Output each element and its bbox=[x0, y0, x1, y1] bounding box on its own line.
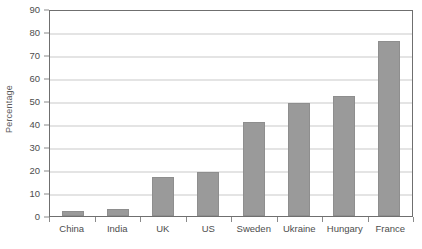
x-axis-tick-label-ukraine: Ukraine bbox=[277, 223, 323, 243]
bar-slot bbox=[186, 11, 231, 216]
bar-sweden[interactable] bbox=[243, 122, 265, 216]
y-axis-tick-label: 40 bbox=[29, 120, 40, 130]
plot-area bbox=[49, 10, 413, 217]
x-axis-tick-mark bbox=[322, 217, 323, 222]
y-axis-tick-label: 30 bbox=[29, 143, 40, 153]
y-axis-tick-label: 20 bbox=[29, 166, 40, 176]
y-axis-tick-label: 10 bbox=[29, 189, 40, 199]
bar-chart: Percentage 0102030405060708090 ChinaIndi… bbox=[0, 0, 422, 249]
x-axis-tick-marks bbox=[49, 217, 413, 222]
x-axis-tick-mark bbox=[368, 217, 369, 222]
y-axis-tick-label: 50 bbox=[29, 97, 40, 107]
x-axis-tick-label-france: France bbox=[368, 223, 414, 243]
y-axis-tick-label: 80 bbox=[29, 28, 40, 38]
x-axis-tick-label-india: India bbox=[95, 223, 141, 243]
x-axis-tick-label-us: US bbox=[186, 223, 232, 243]
x-axis-tick-mark bbox=[49, 217, 50, 222]
bar-slot bbox=[276, 11, 321, 216]
x-axis-tick-label-china: China bbox=[49, 223, 95, 243]
x-axis-tick-mark bbox=[95, 217, 96, 222]
x-axis-tick-mark bbox=[140, 217, 141, 222]
bar-slot bbox=[141, 11, 186, 216]
y-axis-tick-label: 0 bbox=[35, 212, 40, 222]
y-axis-title: Percentage bbox=[0, 0, 18, 217]
x-axis-tick-label-uk: UK bbox=[140, 223, 186, 243]
bar-china[interactable] bbox=[62, 211, 84, 216]
bar-slot bbox=[367, 11, 412, 216]
bar-hungary[interactable] bbox=[333, 96, 355, 216]
bar-slot bbox=[50, 11, 95, 216]
x-axis-tick-label-sweden: Sweden bbox=[231, 223, 277, 243]
bar-ukraine[interactable] bbox=[288, 103, 310, 216]
y-axis-tick-label: 70 bbox=[29, 51, 40, 61]
y-axis-tick-labels: 0102030405060708090 bbox=[18, 10, 44, 217]
x-axis-tick-mark bbox=[277, 217, 278, 222]
y-axis-tick-label: 60 bbox=[29, 74, 40, 84]
x-axis-tick-labels: ChinaIndiaUKUSSwedenUkraineHungaryFrance bbox=[49, 223, 413, 243]
y-axis-tick-label: 90 bbox=[29, 5, 40, 15]
bar-uk[interactable] bbox=[152, 177, 174, 216]
x-axis-tick-mark bbox=[186, 217, 187, 222]
y-axis-title-text: Percentage bbox=[4, 84, 14, 132]
bar-slot bbox=[231, 11, 276, 216]
bar-series bbox=[50, 11, 412, 216]
x-axis-tick-label-hungary: Hungary bbox=[322, 223, 368, 243]
bar-us[interactable] bbox=[197, 172, 219, 216]
bar-india[interactable] bbox=[107, 209, 129, 216]
bar-slot bbox=[95, 11, 140, 216]
x-axis-tick-mark bbox=[231, 217, 232, 222]
x-axis-tick-mark bbox=[413, 217, 414, 222]
bar-slot bbox=[322, 11, 367, 216]
bar-france[interactable] bbox=[378, 41, 400, 216]
